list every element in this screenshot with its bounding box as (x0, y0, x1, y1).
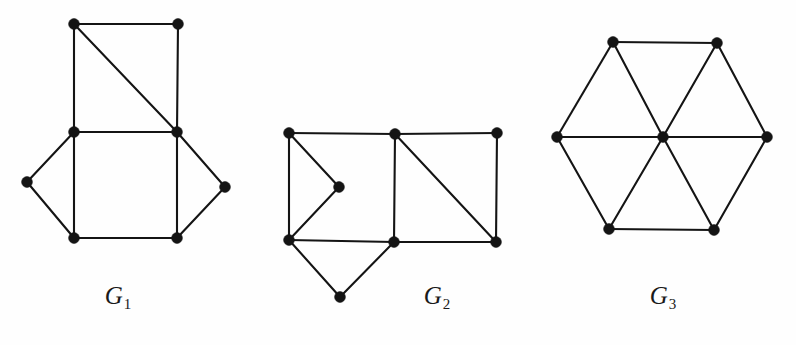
graph-edge-layer (27, 24, 225, 238)
graph-edge (557, 42, 613, 137)
g3-v-right (762, 132, 773, 143)
graph-edge (663, 137, 714, 230)
g2-v-top-mid (390, 129, 401, 140)
g2-v-bottom-right (491, 237, 502, 248)
g3-v-center (658, 132, 669, 143)
g1-v-top-left (69, 19, 80, 30)
graph-label-subscript: 3 (669, 295, 677, 311)
g2-v-top-right (492, 128, 503, 139)
graph-edge (609, 137, 663, 229)
graph-edge (289, 240, 394, 242)
graph-label-g1: G1 (105, 283, 131, 312)
graph-label-subscript: 2 (443, 295, 451, 311)
g2-v-inner (334, 182, 345, 193)
graph-g3 (552, 37, 773, 236)
graph-label-base: G (650, 282, 668, 309)
graph-edge (289, 133, 339, 187)
g2-v-bottom-left (284, 235, 295, 246)
graph-edge (496, 133, 497, 242)
graph-edge (289, 133, 395, 134)
graph-edge (74, 24, 177, 132)
graph-edge (557, 137, 609, 229)
graph-edge (289, 187, 339, 240)
graph-edge (613, 42, 663, 137)
graph-edge (177, 187, 225, 238)
g3-v-top-left (608, 37, 619, 48)
graph-label-g2: G2 (424, 283, 450, 312)
graph-edge (177, 24, 178, 132)
graph-g1 (22, 19, 231, 244)
graph-figure: G1G2G3 (0, 0, 796, 345)
graph-edge (27, 182, 74, 238)
graph-edge (714, 137, 767, 230)
graph-edge (340, 242, 394, 297)
graph-edge (609, 229, 714, 230)
graph-edge (177, 132, 225, 187)
graph-edge (395, 133, 497, 134)
g2-v-bottom-mid (389, 237, 400, 248)
g1-v-mid-right (172, 127, 183, 138)
g3-v-left (552, 132, 563, 143)
graph-edge (613, 42, 717, 43)
graph-label-subscript: 1 (124, 295, 132, 311)
graph-edge (663, 43, 717, 137)
graph-edge (289, 240, 340, 297)
graph-label-base: G (424, 282, 442, 309)
graph-label-base: G (105, 282, 123, 309)
g2-v-top-left (284, 128, 295, 139)
graph-edge (394, 134, 395, 242)
graph-edge (717, 43, 767, 137)
g3-v-top-right (712, 38, 723, 49)
g1-v-top-right (173, 19, 184, 30)
graph-label-g3: G3 (650, 283, 676, 312)
g2-v-pendant-below (335, 292, 346, 303)
g1-v-far-left (22, 177, 33, 188)
graph-edge (27, 132, 74, 182)
g3-v-bottom-right (709, 225, 720, 236)
g1-v-mid-left (69, 127, 80, 138)
g1-v-bottom-right (172, 233, 183, 244)
graph-edge (395, 134, 496, 242)
graph-g2 (284, 128, 503, 303)
g1-v-bottom-left (69, 233, 80, 244)
g1-v-far-right (220, 182, 231, 193)
g3-v-bottom-left (604, 224, 615, 235)
graph-edge-layer (289, 133, 497, 297)
